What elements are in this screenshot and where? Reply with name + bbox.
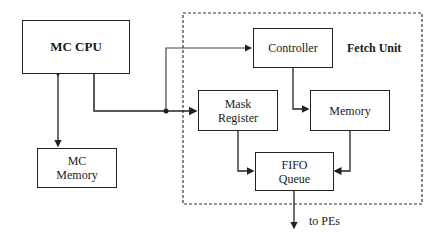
fifo-queue-label-line1: FIFO — [281, 158, 307, 172]
mc-memory-label-line1: MC — [68, 154, 87, 168]
controller-to-memory-link — [293, 67, 308, 109]
mask-register-box: Mask Register — [198, 90, 278, 131]
mc-cpu-box: MC CPU — [22, 20, 130, 74]
mask-to-fifo-link — [238, 130, 253, 171]
memory-to-fifo-link — [335, 130, 350, 171]
mc-memory-box: MC Memory — [37, 148, 117, 188]
memory-box: Memory — [310, 90, 390, 131]
cpu-bus-link — [94, 73, 166, 111]
mc-cpu-label: MC CPU — [50, 40, 102, 54]
fifo-queue-box: FIFO Queue — [255, 152, 334, 191]
memory-label: Memory — [329, 104, 370, 118]
bus-junction — [164, 109, 169, 114]
mc-memory-label-line2: Memory — [56, 168, 97, 182]
controller-label: Controller — [268, 41, 317, 55]
fifo-queue-label-line2: Queue — [279, 172, 310, 186]
fetch-unit-label: Fetch Unit — [347, 41, 401, 56]
mask-register-label-line2: Register — [218, 111, 258, 125]
controller-box: Controller — [253, 28, 333, 68]
mask-register-label-line1: Mask — [225, 97, 252, 111]
to-pes-label: to PEs — [309, 214, 340, 229]
